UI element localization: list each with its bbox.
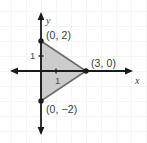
vertex-label-top: (0, 2): [46, 30, 71, 41]
x-axis-label: x: [135, 76, 139, 86]
x-axis-tick-label: 1: [55, 76, 60, 86]
vertex-point-top: [38, 38, 43, 43]
coordinate-plane-figure: (0, 2) (3, 0) (0, −2) y x 1 1: [0, 0, 147, 143]
vertex-label-bottom: (0, −2): [46, 104, 77, 115]
vertex-point-right: [83, 68, 88, 73]
graph-canvas: [0, 0, 147, 143]
vertex-label-right: (3, 0): [91, 58, 116, 69]
y-axis-label: y: [46, 16, 50, 26]
y-axis-tick-label: 1: [30, 51, 35, 61]
vertex-point-bottom: [38, 98, 43, 103]
